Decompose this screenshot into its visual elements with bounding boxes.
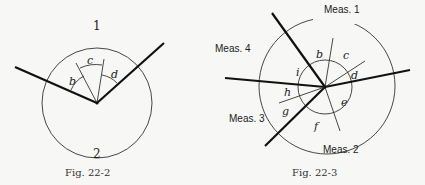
region-label-2: 2	[93, 147, 101, 161]
figure-canvas: 1 2 b c d Fig. 22-2 Meas. 1 Meas. 2 Meas…	[0, 0, 425, 185]
meas-label-4: Meas. 4	[215, 43, 251, 54]
thin-line-e-f	[325, 87, 340, 131]
thick-line-meas4-left	[225, 78, 325, 87]
angle-label-c: c	[87, 54, 93, 67]
meas-label-3: Meas. 3	[229, 113, 265, 124]
thick-line-right	[97, 43, 164, 103]
angle-label-d: d	[351, 69, 358, 82]
center-point	[324, 86, 327, 89]
meas-label-2: Meas. 2	[323, 144, 359, 155]
angle-label-d: d	[111, 68, 118, 81]
angle-label-i: i	[296, 66, 300, 79]
angle-label-g: g	[282, 105, 289, 118]
thick-line-meas3	[265, 87, 325, 146]
angle-label-f: f	[313, 120, 320, 133]
region-label-1: 1	[93, 19, 101, 33]
figure-22-3: Meas. 1 Meas. 2 Meas. 3 Meas. 4 b c d e …	[215, 4, 410, 178]
angle-label-h: h	[284, 86, 291, 99]
angle-label-b: b	[69, 75, 76, 88]
figure-caption: Fig. 22-2	[65, 167, 110, 178]
figure-22-2: 1 2 b c d Fig. 22-2	[15, 19, 164, 178]
thin-line-c-left	[76, 63, 97, 103]
thick-line-left	[15, 67, 97, 103]
figure-caption: Fig. 22-3	[292, 167, 337, 178]
center-point	[96, 102, 99, 105]
angle-label-b: b	[316, 48, 323, 61]
angle-label-e: e	[341, 96, 348, 109]
meas-label-1: Meas. 1	[324, 4, 360, 15]
thin-line-b-c	[325, 38, 333, 87]
angle-label-c: c	[343, 49, 349, 62]
